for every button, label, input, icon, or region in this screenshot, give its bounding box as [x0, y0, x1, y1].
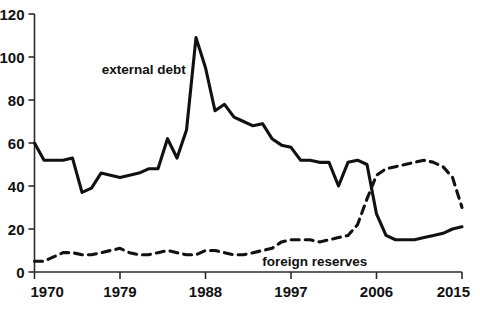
x-tick-label: 2015 [437, 283, 470, 300]
series-paths [35, 38, 463, 262]
series-annotations: external debtforeign reserves [102, 62, 368, 268]
annotation-foreign-reserves: foreign reserves [262, 254, 367, 269]
y-tick-label: 100 [0, 49, 25, 66]
x-tick-label: 1997 [274, 283, 307, 300]
y-tick-label: 40 [8, 178, 25, 195]
y-tick-label: 60 [8, 135, 25, 152]
x-tick-label: 1970 [31, 283, 64, 300]
y-tick-label: 80 [8, 92, 25, 109]
annotation-external-debt: external debt [102, 62, 187, 77]
y-tick-label: 20 [8, 221, 25, 238]
y-tick-label: 120 [0, 6, 25, 23]
x-tick-label: 1988 [189, 283, 222, 300]
y-axis: 020406080100120 [0, 6, 35, 281]
x-tick-label: 2006 [360, 283, 393, 300]
chart-container: 020406080100120 197019791988199720062015… [0, 0, 480, 315]
series-line-external-debt [35, 38, 463, 240]
line-chart: 020406080100120 197019791988199720062015… [0, 0, 480, 315]
x-tick-label: 1979 [103, 283, 136, 300]
x-axis-ticks: 197019791988199720062015 [31, 272, 471, 300]
x-axis: 197019791988199720062015 [31, 272, 471, 300]
y-axis-ticks: 020406080100120 [0, 6, 35, 281]
y-tick-label: 0 [16, 264, 24, 281]
